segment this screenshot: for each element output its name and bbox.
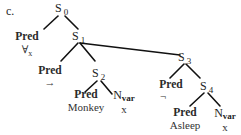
edge-s1-s3 bbox=[80, 43, 180, 55]
node-s2-base: S bbox=[92, 66, 99, 80]
nvar-2-sub: var bbox=[223, 111, 236, 121]
node-nvar-1: Nvar x bbox=[111, 89, 137, 115]
node-nvar-2: Nvar x bbox=[211, 107, 239, 133]
node-s4: S4 bbox=[200, 80, 213, 95]
nvar-2-value: x bbox=[211, 122, 239, 133]
node-s3-base: S bbox=[178, 50, 185, 64]
node-s0-sub: 0 bbox=[64, 7, 69, 17]
node-s2-sub: 2 bbox=[101, 72, 106, 82]
pred-forall-head: Pred bbox=[12, 31, 42, 43]
edge-s3-s4 bbox=[186, 64, 200, 78]
node-s2: S2 bbox=[92, 67, 105, 82]
node-pred-monkey: Pred Monkey bbox=[66, 89, 106, 113]
nvar-1-base: N bbox=[113, 88, 122, 102]
node-s3-sub: 3 bbox=[187, 56, 192, 66]
nvar-1-value: x bbox=[111, 104, 137, 115]
pred-asleep-value: Asleep bbox=[166, 120, 204, 131]
node-s4-sub: 4 bbox=[209, 85, 214, 95]
node-s1-base: S bbox=[72, 29, 79, 43]
pred-neg-head: Pred bbox=[157, 79, 185, 91]
edge-s1-s2 bbox=[80, 43, 95, 61]
edge-s0-s1 bbox=[65, 16, 78, 29]
node-s4-base: S bbox=[200, 79, 207, 93]
edge-s3-pred-neg bbox=[170, 64, 184, 78]
pred-asleep-head: Pred bbox=[166, 107, 204, 119]
node-pred-neg: Pred ¬ bbox=[157, 79, 185, 102]
forall-variable: x bbox=[28, 49, 32, 58]
pred-monkey-value: Monkey bbox=[66, 102, 106, 113]
node-pred-arrow: Pred → bbox=[36, 65, 64, 88]
node-s1-sub: 1 bbox=[81, 35, 86, 45]
node-s0-base: S bbox=[55, 1, 62, 15]
node-s0: S0 bbox=[55, 2, 68, 17]
node-pred-asleep: Pred Asleep bbox=[166, 107, 204, 131]
edge-s1-pred-arrow bbox=[61, 43, 78, 61]
node-s1: S1 bbox=[72, 30, 85, 45]
edge-s0-pred-forall bbox=[44, 16, 58, 29]
negation-icon: ¬ bbox=[157, 91, 185, 102]
nvar-1-sub: var bbox=[122, 93, 135, 103]
node-pred-forall: Pred ∀x bbox=[12, 31, 42, 58]
pred-monkey-head: Pred bbox=[66, 89, 106, 101]
implication-arrow-icon: → bbox=[36, 77, 64, 88]
node-s3: S3 bbox=[178, 51, 191, 66]
nvar-2-base: N bbox=[214, 106, 223, 120]
pred-arrow-head: Pred bbox=[36, 65, 64, 77]
